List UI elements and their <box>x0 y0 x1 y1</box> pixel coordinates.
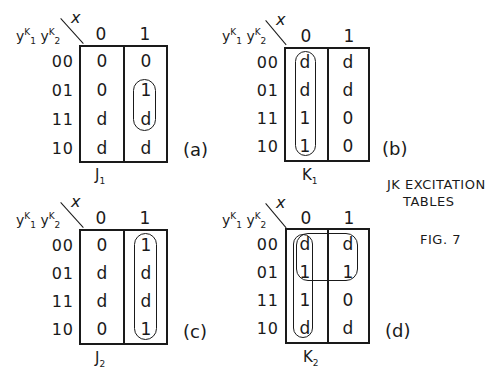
figure-caption-line2: TABLES <box>403 194 454 209</box>
column-label: 1 <box>123 208 167 228</box>
cell: 0 <box>80 231 124 260</box>
map-tag: (a) <box>183 139 208 160</box>
cell: d <box>326 76 370 105</box>
cell: d <box>326 48 370 77</box>
row-label: 01 <box>253 76 279 105</box>
cell: 0 <box>124 47 168 76</box>
figure-number: FIG. 7 <box>420 232 461 247</box>
column-label: 0 <box>79 208 123 228</box>
cell: d <box>124 134 168 163</box>
function-label: K1 <box>302 166 318 186</box>
map-tag: (d) <box>385 320 410 341</box>
cell: d <box>80 259 124 288</box>
row-label: 01 <box>253 258 279 287</box>
grouping-loop <box>134 233 157 340</box>
row-variables-label: yK1 yK2 <box>222 27 266 46</box>
cell: 0 <box>326 132 370 161</box>
row-label: 10 <box>48 134 74 163</box>
map-tag: (b) <box>382 138 407 159</box>
row-label: 10 <box>48 315 74 344</box>
function-label: J1 <box>95 166 105 186</box>
row-label: 01 <box>48 259 74 288</box>
row-label: 00 <box>253 48 279 77</box>
function-label: J2 <box>95 349 105 369</box>
row-variables-label: yK1 yK2 <box>222 211 266 230</box>
column-label: 0 <box>79 24 123 44</box>
row-variables-label: yK1 yK2 <box>16 27 60 46</box>
map-tag: (c) <box>183 321 207 342</box>
row-label: 10 <box>253 314 279 343</box>
column-label: 1 <box>123 24 167 44</box>
row-label: 00 <box>48 231 74 260</box>
cell: d <box>80 105 124 134</box>
column-label: 1 <box>327 208 371 228</box>
row-label: 11 <box>48 105 74 134</box>
cell: 0 <box>80 76 124 105</box>
row-label: 11 <box>48 287 74 316</box>
row-label: 00 <box>253 230 279 259</box>
column-label: 1 <box>327 26 371 46</box>
cell: 0 <box>326 104 370 133</box>
figure-caption-line1: JK EXCITATION <box>387 177 486 192</box>
function-label: K2 <box>303 348 319 368</box>
row-variables-label: yK1 yK2 <box>16 211 60 230</box>
row-label: 11 <box>253 286 279 315</box>
grouping-loop <box>133 79 156 131</box>
cell: 0 <box>80 315 124 344</box>
cell: d <box>326 314 370 343</box>
cell: d <box>80 287 124 316</box>
column-label: 0 <box>284 208 328 228</box>
cell: d <box>80 134 124 163</box>
cell: 0 <box>80 47 124 76</box>
row-label: 00 <box>48 47 74 76</box>
row-label: 01 <box>48 76 74 105</box>
grouping-loop <box>295 51 316 156</box>
cell: 0 <box>326 286 370 315</box>
grouping-loop-horizontal <box>296 233 358 281</box>
row-label: 10 <box>253 132 279 161</box>
column-label: 0 <box>284 26 328 46</box>
row-label: 11 <box>253 104 279 133</box>
